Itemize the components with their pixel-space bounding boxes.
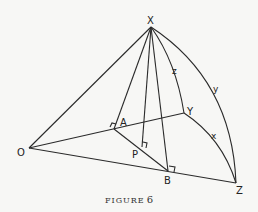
label-B: B xyxy=(164,175,171,186)
caption-word: FIGURE xyxy=(105,196,145,205)
label-arc-y: y xyxy=(213,84,219,94)
line-OY xyxy=(29,113,184,148)
label-O: O xyxy=(17,147,25,158)
label-A: A xyxy=(120,117,127,128)
label-Z: Z xyxy=(236,185,243,196)
line-XP xyxy=(142,27,151,147)
label-Y: Y xyxy=(186,106,194,117)
arc-x-YZ xyxy=(184,113,236,183)
line-XA xyxy=(114,27,151,129)
figure-6-diagram: X Y Z O A B P z y x FIGURE6 xyxy=(0,0,258,212)
right-angle-P xyxy=(143,142,147,148)
right-angle-B xyxy=(169,166,175,172)
line-OX xyxy=(29,27,151,148)
line-AB xyxy=(114,129,168,171)
caption-number: 6 xyxy=(147,194,153,205)
figure-caption: FIGURE6 xyxy=(105,194,153,205)
label-P: P xyxy=(132,149,138,160)
label-arc-z: z xyxy=(172,66,177,76)
label-X: X xyxy=(147,15,154,26)
arc-y-XZ xyxy=(151,27,236,183)
line-XB xyxy=(151,27,168,171)
label-arc-x: x xyxy=(211,131,217,141)
